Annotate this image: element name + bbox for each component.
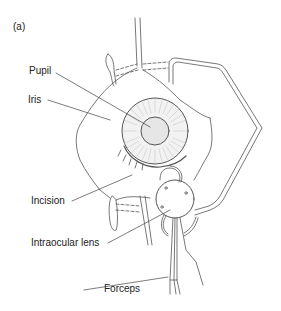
eye-surgery-diagram: (a) Pupil Iris Incision Intraocular lens… [0, 0, 281, 311]
label-pupil: Pupil [29, 66, 51, 76]
label-forceps: Forceps [104, 284, 140, 294]
pupil [141, 117, 169, 145]
superior-rectus-suture [135, 18, 142, 68]
forceps [170, 218, 203, 294]
label-iris: Iris [28, 95, 41, 105]
label-incision: Incision [31, 196, 65, 206]
diagram-drawing [0, 0, 281, 311]
panel-label: (a) [13, 22, 25, 32]
lower-lid-flap [109, 196, 150, 231]
label-intraocular-lens: Intraocular lens [31, 238, 99, 248]
